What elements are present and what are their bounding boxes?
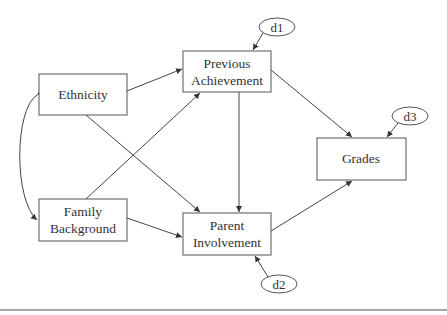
disturbance-d2: d2 (261, 275, 297, 293)
node-label-line1: Previous (203, 56, 250, 71)
node-ethnicity: Ethnicity (39, 74, 127, 115)
disturbance-label: d2 (273, 277, 286, 292)
node-previous-achievement: Previous Achievement (183, 51, 271, 92)
node-label-line2: Achievement (191, 73, 263, 88)
disturbance-d1: d1 (259, 18, 295, 36)
node-label-line2: Involvement (193, 235, 261, 250)
node-label: Grades (342, 151, 380, 166)
path-diagram: Ethnicity Family Background Previous Ach… (0, 0, 447, 315)
edge-d1-to-previous-achievement (253, 33, 263, 50)
node-label-line1: Family (64, 204, 103, 219)
edge-previous-achievement-to-grades (271, 70, 352, 137)
edge-family-background-to-parent-involvement (127, 218, 182, 237)
correlation-ethnicity-family-background (20, 95, 37, 220)
disturbance-label: d3 (404, 109, 417, 124)
node-label: Ethnicity (58, 87, 108, 102)
edge-parent-involvement-to-grades (271, 181, 352, 231)
disturbance-label: d1 (271, 20, 284, 35)
node-parent-involvement: Parent Involvement (183, 213, 271, 255)
node-label-line1: Parent (210, 218, 245, 233)
node-grades: Grades (317, 138, 406, 180)
node-family-background: Family Background (39, 199, 127, 241)
edge-ethnicity-to-parent-involvement (86, 115, 200, 212)
edge-d3-to-grades (387, 123, 398, 137)
disturbance-d3: d3 (392, 107, 428, 125)
edge-d2-to-parent-involvement (255, 256, 268, 277)
edge-ethnicity-to-previous-achievement (127, 69, 182, 91)
node-label-line2: Background (50, 221, 116, 236)
